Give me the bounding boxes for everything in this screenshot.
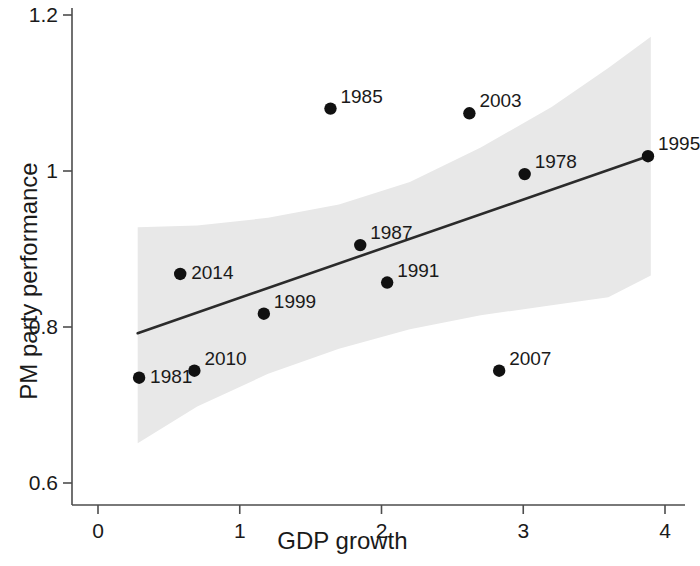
data-point-label: 2003	[479, 90, 521, 112]
data-point-label: 1987	[370, 222, 412, 244]
data-point-label: 2010	[204, 348, 246, 370]
data-point	[133, 372, 145, 384]
data-point-label: 2014	[191, 262, 233, 284]
data-point	[642, 150, 654, 162]
y-axis-ticks	[63, 15, 72, 483]
x-axis-title: GDP growth	[0, 527, 685, 555]
y-tick-label: 0.6	[29, 471, 58, 495]
data-point-label: 1985	[340, 86, 382, 108]
data-point-label: 1995	[658, 133, 700, 155]
data-point	[174, 268, 186, 280]
x-axis-ticks	[98, 505, 665, 514]
data-point	[493, 364, 505, 376]
data-point	[258, 308, 270, 320]
data-point	[518, 168, 530, 180]
y-axis-title: PM party performance	[15, 116, 43, 446]
data-point-label: 1981	[150, 366, 192, 388]
y-tick-label: 1.2	[29, 3, 58, 27]
data-point	[354, 239, 366, 251]
y-tick-label: 1	[46, 159, 58, 183]
data-point-label: 1978	[535, 151, 577, 173]
data-point-label: 2007	[509, 348, 551, 370]
data-point	[381, 276, 393, 288]
data-point-label: 1991	[397, 260, 439, 282]
data-point-label: 1999	[274, 291, 316, 313]
data-point	[324, 102, 336, 114]
data-point	[463, 107, 475, 119]
